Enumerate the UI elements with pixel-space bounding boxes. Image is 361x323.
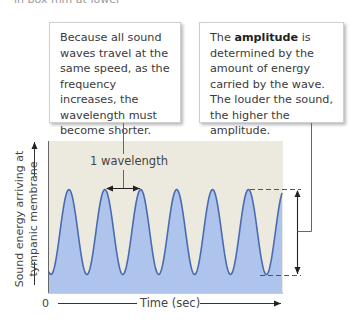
amplitude-connector bbox=[298, 123, 312, 232]
y-axis-label: Sound energy arriving at tympanic membra… bbox=[13, 144, 43, 294]
wavelength-label: 1 wavelength bbox=[88, 154, 170, 168]
x-axis-origin: 0 bbox=[42, 297, 49, 310]
sound-wave-diagram bbox=[0, 0, 361, 323]
x-axis-label: Time (sec) bbox=[140, 296, 200, 310]
